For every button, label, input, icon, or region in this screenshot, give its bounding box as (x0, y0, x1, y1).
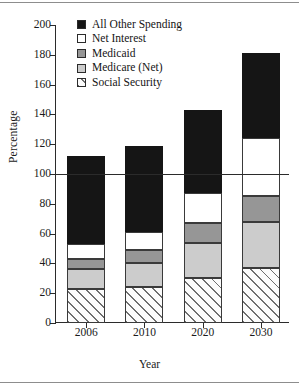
bar-segment[interactable] (242, 53, 280, 138)
y-axis-tick-label: 40 (40, 258, 52, 270)
top-rule-divider (0, 2, 299, 3)
y-axis-tick-label: 180 (34, 49, 51, 61)
legend-swatch-icon (77, 78, 86, 87)
y-axis-tick-label: 120 (34, 138, 51, 150)
y-axis-tick-label: 60 (40, 228, 52, 240)
legend-swatch-icon (77, 64, 86, 73)
x-axis-title: Year (0, 358, 299, 370)
bar-segment[interactable] (125, 232, 163, 250)
bar-segment[interactable] (184, 223, 222, 242)
bar-segment[interactable] (67, 156, 105, 244)
bar-segment[interactable] (125, 263, 163, 287)
bar-segment[interactable] (125, 287, 163, 323)
bar-segment[interactable] (67, 244, 105, 259)
legend-swatch-icon (77, 49, 86, 58)
bar-segment[interactable] (184, 278, 222, 323)
figure-container: Percentage Year 020406080100120140160180… (0, 0, 299, 385)
legend-item-label: Medicaid (92, 48, 135, 60)
stacked-bar[interactable] (125, 146, 163, 323)
legend-swatch-icon (77, 34, 86, 43)
bar-segment[interactable] (184, 243, 222, 279)
y-axis-tick-label: 160 (34, 79, 51, 91)
bar-segment[interactable] (67, 289, 105, 323)
reference-line-100 (55, 174, 289, 175)
bar-segment[interactable] (184, 110, 222, 193)
stacked-bar[interactable] (184, 110, 222, 323)
bar-segment[interactable] (125, 146, 163, 232)
y-axis-tick-label: 140 (34, 109, 51, 121)
y-axis-tick-label: 20 (40, 287, 52, 299)
legend-item-label: Medicare (Net) (92, 62, 163, 74)
legend-item-label: All Other Spending (92, 19, 182, 31)
legend: All Other SpendingNet InterestMedicaidMe… (77, 17, 182, 90)
bar-segment[interactable] (242, 196, 280, 221)
bar-segment[interactable] (125, 250, 163, 263)
legend-item[interactable]: Social Security (77, 75, 182, 90)
bar-segment[interactable] (67, 269, 105, 288)
legend-item[interactable]: Medicaid (77, 46, 182, 61)
y-axis-tick-label: 0 (45, 317, 51, 329)
bottom-rule-divider (0, 382, 299, 383)
x-axis-tick-label: 2010 (133, 327, 156, 339)
stacked-bar[interactable] (67, 156, 105, 323)
legend-item-label: Net Interest (92, 33, 146, 45)
bar-segment[interactable] (184, 193, 222, 223)
y-axis-tick-label: 100 (34, 168, 51, 180)
y-axis-tick-label: 200 (34, 19, 51, 31)
legend-swatch-icon (77, 20, 86, 29)
bar-segment[interactable] (242, 268, 280, 323)
legend-item[interactable]: Medicare (Net) (77, 61, 182, 76)
bar-segment[interactable] (67, 259, 105, 269)
legend-item[interactable]: Net Interest (77, 32, 182, 47)
x-axis-tick-label: 2006 (75, 327, 98, 339)
legend-item[interactable]: All Other Spending (77, 17, 182, 32)
legend-item-label: Social Security (92, 77, 162, 89)
y-axis-tick-label: 80 (40, 198, 52, 210)
x-axis-tick-label: 2030 (249, 327, 272, 339)
x-axis-tick-label: 2020 (191, 327, 214, 339)
y-axis-title: Percentage (7, 111, 19, 163)
stacked-bar[interactable] (242, 53, 280, 323)
bar-segment[interactable] (242, 138, 280, 196)
bar-segment[interactable] (242, 222, 280, 268)
